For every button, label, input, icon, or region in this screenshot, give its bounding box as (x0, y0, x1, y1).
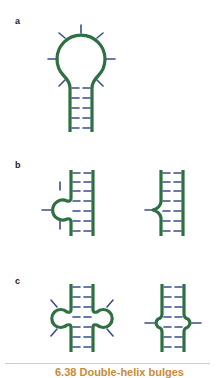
caption-divider (5, 363, 210, 364)
bulge-loop-single (145, 170, 183, 236)
bulge-loop-large (42, 170, 93, 236)
figure-caption: 6.38 Double-helix bulges (55, 366, 184, 378)
internal-loop-large (51, 284, 113, 352)
internal-loop-small (145, 284, 201, 352)
hairpin-loop (48, 25, 115, 132)
